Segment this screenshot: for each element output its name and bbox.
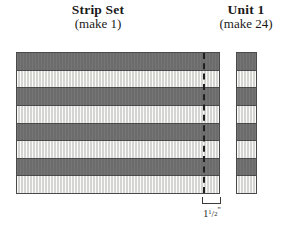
unit-strip-6-light xyxy=(237,141,256,159)
unit-strip-7-dark xyxy=(237,159,256,177)
dimension-label: 11/2" xyxy=(182,206,242,219)
unit-strip-1-dark xyxy=(237,53,256,71)
strip-set-strip-1-dark xyxy=(17,53,219,71)
unit-rows xyxy=(237,53,256,193)
unit-strip-4-light xyxy=(237,106,256,124)
unit-strip-3-dark xyxy=(237,88,256,106)
unit-strip-2-light xyxy=(237,71,256,89)
strip-set-title-block: Strip Set (make 1) xyxy=(38,2,158,32)
strip-set-strip-3-dark xyxy=(17,88,219,106)
strip-set-strip-7-dark xyxy=(17,159,219,177)
strip-set-strip-2-light xyxy=(17,71,219,89)
unit-subtitle: (make 24) xyxy=(202,17,281,32)
strip-set-title: Strip Set xyxy=(38,2,158,17)
dimension-inch-mark: " xyxy=(217,206,220,215)
unit-strip-5-dark xyxy=(237,124,256,142)
strip-set-strip-4-light xyxy=(17,106,219,124)
strip-set-strip-8-light xyxy=(17,176,219,193)
strip-set-rows xyxy=(17,53,219,193)
unit-title: Unit 1 xyxy=(202,2,281,17)
strip-set-subtitle: (make 1) xyxy=(38,17,158,32)
unit-title-block: Unit 1 (make 24) xyxy=(202,2,281,32)
strip-set-strip-6-light xyxy=(17,141,219,159)
strip-set-diagram xyxy=(16,52,220,194)
dimension-bracket xyxy=(202,197,221,204)
unit-strip-8-light xyxy=(237,176,256,193)
strip-set-strip-5-dark xyxy=(17,124,219,142)
unit-diagram xyxy=(236,52,257,194)
cut-line-dashed xyxy=(203,53,205,193)
